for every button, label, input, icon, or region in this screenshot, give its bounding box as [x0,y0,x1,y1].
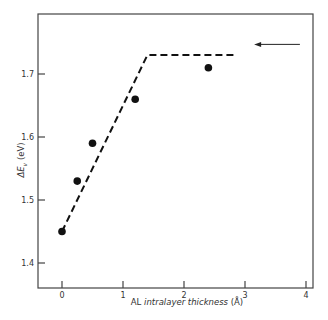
data-point [205,64,213,72]
y-tick-label: 1.7 [21,70,34,79]
data-point [131,95,139,103]
y-tick-label: 1.6 [21,133,34,142]
y-tick-label: 1.5 [21,196,34,205]
data-point [58,228,66,236]
arrow-left-icon [254,42,261,47]
arrow-annotation [254,42,300,47]
data-point [73,177,81,185]
dashed-model-line [62,55,236,231]
data-point [89,140,97,148]
chart: 1.41.51.61.7 01234 AL intralayer thickne… [0,0,328,320]
x-tick-label: 1 [120,291,125,300]
y-tick-label: 1.4 [21,259,34,268]
data-points [58,64,212,235]
x-tick-label: 4 [303,291,308,300]
model-line [62,55,236,231]
x-tick-label: 3 [242,291,247,300]
y-axis-label: ΔEv (eV) [16,142,28,178]
x-tick-label: 0 [59,291,64,300]
x-axis-label: AL intralayer thickness (Å) [131,296,243,307]
